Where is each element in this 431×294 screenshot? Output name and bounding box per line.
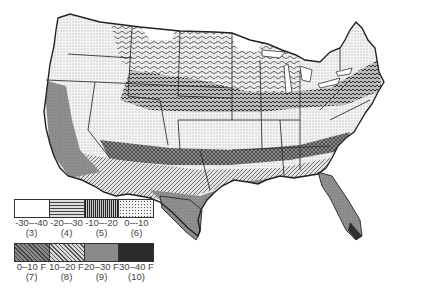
swatch-zone-3 bbox=[15, 200, 50, 217]
legend-label-zone-7: 0–10 F(7) bbox=[14, 262, 49, 282]
swatch-zone-5 bbox=[85, 200, 120, 217]
legend-label-zone-6: 0–-10(6) bbox=[119, 218, 154, 238]
legend-row-2: 0–10 F(7) 10–20 F(8) 20–30 F(9) 30–40 F(… bbox=[14, 243, 154, 282]
swatch-zone-4 bbox=[50, 200, 85, 217]
legend-label-zone-10: 30–40 F(10) bbox=[119, 262, 154, 282]
legend-label-zone-4: -20–-30(4) bbox=[49, 218, 84, 238]
swatch-zone-9 bbox=[85, 244, 120, 261]
legend-label-zone-5: -10–-20(5) bbox=[84, 218, 119, 238]
swatch-zone-10 bbox=[119, 244, 153, 261]
legend-label-zone-3: -30–-40(3) bbox=[14, 218, 49, 238]
legend-label-zone-9: 20–30 F(9) bbox=[84, 262, 119, 282]
legend-label-zone-8: 10–20 F(8) bbox=[49, 262, 84, 282]
legend-row-1: -30–-40(3) -20–-30(4) -10–-20(5) 0–-10(6… bbox=[14, 199, 154, 238]
swatch-zone-7 bbox=[15, 244, 50, 261]
swatch-zone-8 bbox=[50, 244, 85, 261]
swatch-zone-6 bbox=[119, 200, 153, 217]
